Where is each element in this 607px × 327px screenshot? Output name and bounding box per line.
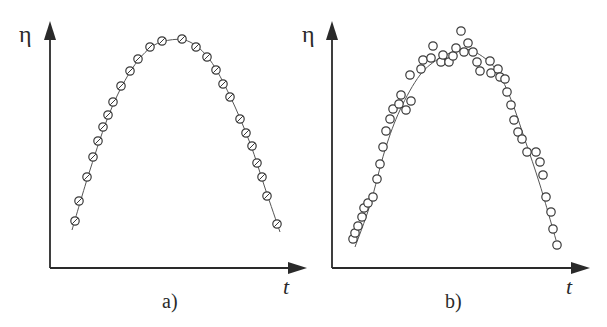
figure [0,0,607,327]
data-point [354,222,362,230]
data-point [449,52,457,60]
data-point [402,106,410,114]
data-point [382,127,390,135]
data-points-b [349,27,561,249]
data-point [373,175,381,183]
data-point [417,65,425,73]
data-point [460,48,468,56]
data-point [503,88,511,96]
panel-label-a: a) [162,291,178,311]
data-point [553,241,561,249]
data-point [395,100,403,108]
data-point [429,42,437,50]
x-axis-label-b: t [566,276,572,298]
data-point [501,75,509,83]
panel-b [326,21,590,274]
data-point [518,135,526,143]
y-axis-arrow-b [326,21,338,40]
data-point [494,65,502,73]
data-point [469,48,477,56]
y-axis-label-b: η [302,22,315,46]
data-point [542,193,550,201]
y-axis-arrow-a [44,21,56,40]
data-point [457,27,465,35]
x-axis-arrow-b [571,262,590,274]
data-point [510,116,518,124]
data-point [427,54,435,62]
data-point [386,115,394,123]
data-point [407,97,415,105]
data-points-a [71,35,281,228]
data-point [464,39,472,47]
data-point [536,158,544,166]
data-point [369,193,377,201]
data-point [523,148,531,156]
data-point [452,44,460,52]
data-point [419,56,427,64]
data-point [439,51,447,59]
data-point [539,171,547,179]
y-axis-label-a: η [19,22,32,46]
data-point [397,91,405,99]
data-point [549,225,557,233]
x-axis-label-a: t [283,276,289,298]
data-point [476,67,484,75]
panel-a [44,21,307,274]
data-point [376,160,384,168]
x-axis-arrow-a [288,262,307,274]
data-point [358,213,366,221]
panel-label-b: b) [445,291,462,311]
data-point [473,58,481,66]
data-point [486,57,494,65]
data-point [507,101,515,109]
data-point [532,148,540,156]
data-point [547,208,555,216]
data-point [379,143,387,151]
data-point [406,71,414,79]
